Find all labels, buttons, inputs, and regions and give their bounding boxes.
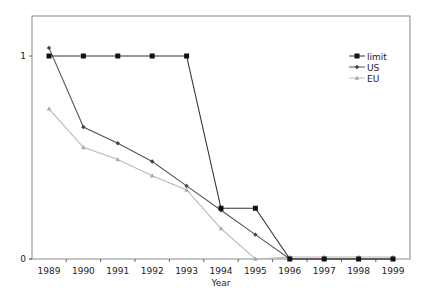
x-tick-label: 1997	[313, 266, 336, 276]
us-marker-diamond	[116, 141, 120, 145]
limit-marker-square	[219, 206, 224, 211]
x-axis-title: Year	[210, 278, 230, 288]
line-chart: 1989199019911992199319941995199619971998…	[0, 0, 429, 304]
series-eu	[47, 106, 396, 261]
limit-marker-square	[81, 54, 86, 59]
limit-marker-square	[253, 206, 258, 211]
us-marker-diamond	[81, 125, 85, 129]
limit-marker-square	[287, 257, 292, 262]
limit-marker-square	[150, 54, 155, 59]
x-tick-label: 1991	[106, 266, 129, 276]
y-tick-label: 1	[20, 51, 26, 61]
x-tick-label: 1999	[382, 266, 405, 276]
legend-us-marker-diamond	[355, 65, 359, 69]
legend-limit-marker-square	[355, 54, 360, 59]
y-axis: 01	[20, 51, 32, 264]
x-tick-label: 1993	[175, 266, 198, 276]
legend: limitUSEU	[349, 52, 387, 84]
legend-label: US	[367, 63, 380, 73]
x-tick-label: 1989	[38, 266, 61, 276]
limit-marker-square	[356, 257, 361, 262]
y-tick-label: 0	[20, 254, 26, 264]
limit-marker-square	[184, 54, 189, 59]
x-tick-label: 1992	[141, 266, 164, 276]
us-marker-diamond	[47, 46, 51, 50]
x-tick-label: 1996	[278, 266, 301, 276]
legend-label: limit	[367, 52, 387, 62]
x-axis: 1989199019911992199319941995199619971998…	[29, 259, 405, 276]
limit-marker-square	[115, 54, 120, 59]
legend-item-limit: limit	[349, 52, 387, 62]
x-tick-label: 1995	[244, 266, 267, 276]
legend-item-us: US	[349, 63, 380, 73]
x-tick-label: 1994	[210, 266, 233, 276]
plot-frame	[32, 16, 410, 259]
series-layer	[47, 46, 396, 262]
limit-marker-square	[391, 257, 396, 262]
limit-marker-square	[47, 54, 52, 59]
eu-marker-triangle	[47, 106, 52, 110]
limit-marker-square	[322, 257, 327, 262]
legend-item-eu: EU	[349, 74, 379, 84]
x-tick-label: 1998	[347, 266, 370, 276]
x-tick-label: 1990	[72, 266, 95, 276]
legend-label: EU	[367, 74, 379, 84]
